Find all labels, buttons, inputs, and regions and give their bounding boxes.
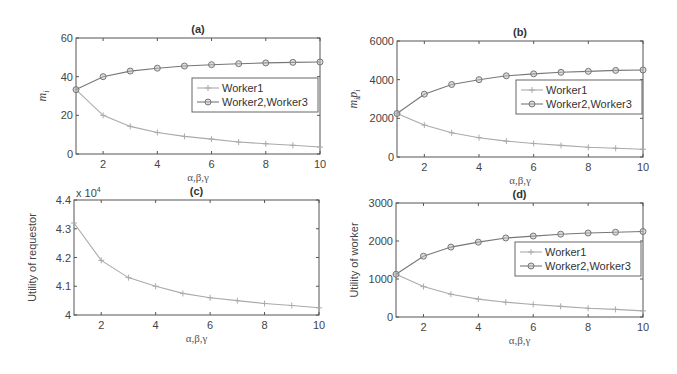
- y-tick-label: 0: [67, 148, 73, 160]
- y-tick-label: 2000: [370, 112, 394, 124]
- circle-marker: [317, 59, 323, 65]
- subplot-b: 2468100200040006000(b)α,β,γmipiWorker1Wo…: [346, 26, 649, 186]
- y-tick-label: 3000: [369, 197, 393, 209]
- y-axis-label: Utility of worker: [348, 222, 360, 298]
- y-tick-label: 4.2: [56, 252, 71, 264]
- x-tick-label: 10: [314, 158, 326, 170]
- y-tick-label: 0: [388, 151, 394, 163]
- circle-marker: [290, 59, 296, 65]
- x-axis-label: α,β,γ: [187, 171, 209, 183]
- circle-marker: [393, 271, 399, 277]
- legend: Worker1Worker2,Worker3: [515, 242, 641, 276]
- circle-marker: [640, 67, 646, 73]
- y-tick-label: 40: [61, 71, 73, 83]
- circle-marker: [263, 60, 269, 66]
- circle-marker: [558, 231, 564, 237]
- plot-area: [74, 200, 319, 315]
- legend-entry: Worker1: [545, 246, 586, 258]
- legend-entry: Worker2,Worker3: [545, 260, 631, 272]
- y-tick-label: 4: [65, 309, 71, 321]
- figure-2x2-subplots: 2468100204060(a)α,β,γmiWorker1Worker2,Wo…: [0, 0, 677, 374]
- y-tick-label: 20: [61, 109, 73, 121]
- y-tick-label: 4.4: [56, 194, 71, 206]
- circle-marker: [236, 61, 242, 67]
- circle-marker: [154, 65, 160, 71]
- circle-marker: [531, 71, 537, 77]
- x-tick-label: 6: [208, 158, 214, 170]
- circle-marker: [529, 101, 535, 107]
- circle-marker: [449, 82, 455, 88]
- x-tick-label: 10: [313, 319, 325, 331]
- y-tick-label: 6000: [370, 35, 394, 47]
- x-tick-label: 10: [637, 321, 649, 333]
- x-tick-label: 2: [421, 161, 427, 173]
- legend: Worker1Worker2,Worker3: [516, 80, 642, 114]
- circle-marker: [394, 111, 400, 117]
- x-tick-label: 8: [263, 158, 269, 170]
- circle-marker: [448, 244, 454, 250]
- subplot-title: (b): [513, 26, 527, 38]
- y-tick-label: 4000: [370, 74, 394, 86]
- x-tick-label: 8: [585, 161, 591, 173]
- y-multiplier-label: x 104: [76, 186, 101, 199]
- circle-marker: [73, 87, 79, 93]
- circle-marker: [476, 77, 482, 83]
- y-axis-label: mi: [35, 91, 51, 102]
- circle-marker: [127, 68, 133, 74]
- circle-marker: [530, 233, 536, 239]
- legend-entry: Worker1: [222, 82, 263, 94]
- y-axis-label: Utility of requestor: [26, 213, 38, 302]
- x-tick-label: 4: [153, 319, 159, 331]
- x-tick-label: 4: [154, 158, 160, 170]
- circle-marker: [205, 99, 211, 105]
- circle-marker: [585, 230, 591, 236]
- subplot-title: (d): [512, 188, 526, 200]
- x-tick-label: 6: [530, 321, 536, 333]
- y-axis-label: mipi: [346, 89, 362, 108]
- x-axis-label: α,β,γ: [509, 334, 531, 346]
- y-tick-label: 2000: [369, 235, 393, 247]
- subplot-c: 24681044.14.24.34.4(c)α,β,γUtility of re…: [26, 185, 325, 344]
- circle-marker: [503, 73, 509, 79]
- circle-marker: [475, 239, 481, 245]
- circle-marker: [181, 63, 187, 69]
- y-tick-label: 0: [387, 311, 393, 323]
- x-tick-label: 2: [420, 321, 426, 333]
- x-tick-label: 2: [100, 158, 106, 170]
- x-tick-label: 8: [261, 319, 267, 331]
- circle-marker: [421, 91, 427, 97]
- legend-entry: Worker2,Worker3: [546, 98, 632, 110]
- x-axis-label: α,β,γ: [186, 332, 208, 344]
- circle-marker: [640, 229, 646, 235]
- x-tick-label: 6: [531, 161, 537, 173]
- circle-marker: [100, 74, 106, 80]
- subplot-a: 2468100204060(a)α,β,γmiWorker1Worker2,Wo…: [35, 23, 326, 183]
- subplot-d: 2468100100020003000(d)α,β,γUtility of wo…: [348, 188, 649, 346]
- circle-marker: [558, 69, 564, 75]
- x-tick-label: 4: [475, 321, 481, 333]
- circle-marker: [585, 68, 591, 74]
- circle-marker: [503, 235, 509, 241]
- x-tick-label: 8: [585, 321, 591, 333]
- legend-entry: Worker1: [546, 84, 587, 96]
- y-tick-label: 4.1: [56, 280, 71, 292]
- x-tick-label: 10: [637, 161, 649, 173]
- y-tick-label: 60: [61, 32, 73, 44]
- circle-marker: [420, 253, 426, 259]
- circle-marker: [209, 62, 215, 68]
- circle-marker: [613, 229, 619, 235]
- x-tick-label: 4: [476, 161, 482, 173]
- x-axis-label: α,β,γ: [509, 174, 531, 186]
- subplot-title: (a): [191, 23, 205, 35]
- x-tick-label: 2: [98, 319, 104, 331]
- legend: Worker1Worker2,Worker3: [192, 78, 318, 112]
- y-tick-label: 1000: [369, 273, 393, 285]
- circle-marker: [528, 263, 534, 269]
- x-tick-label: 6: [207, 319, 213, 331]
- legend-entry: Worker2,Worker3: [222, 96, 308, 108]
- y-tick-label: 4.3: [56, 223, 71, 235]
- circle-marker: [613, 67, 619, 73]
- subplot-title: (c): [190, 185, 204, 197]
